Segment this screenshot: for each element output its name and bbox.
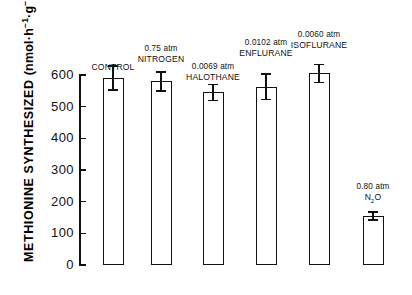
bar-nitrous-oxide [363, 216, 384, 265]
error-cap-lower-enflurane [261, 99, 271, 101]
error-cap-lower-halothane [208, 100, 218, 102]
error-bar-nitrogen [160, 72, 162, 91]
bar-label-agent-halothane: HALOTHANE [167, 72, 259, 82]
bar-nitrogen [151, 81, 172, 265]
error-cap-upper-isoflurane [314, 64, 324, 66]
y-tick-label-wrap-0: 0 [30, 257, 74, 271]
y-tick-label-0: 0 [34, 257, 74, 272]
y-tick-300 [79, 169, 86, 171]
y-tick-label-200: 200 [34, 194, 74, 209]
y-tick-600 [79, 74, 86, 76]
error-cap-lower-isoflurane [314, 82, 324, 84]
y-tick-label-400: 400 [34, 130, 74, 145]
figure-bar-chart: METHIONINE SYNTHESIZED (nmol·h−1·g−1) 01… [0, 0, 412, 295]
error-cap-upper-nitrous-oxide [368, 211, 378, 213]
y-tick-400 [79, 138, 86, 140]
bar-label-isoflurane: 0.0060 atmISOFLURANE [273, 30, 365, 51]
y-tick-label-100: 100 [34, 225, 74, 240]
bar-halothane [203, 92, 224, 265]
bar-label-agent-nitrous-oxide: N2O [327, 192, 412, 202]
y-tick-label-wrap-200: 200 [30, 194, 74, 208]
y-tick-200 [79, 201, 86, 203]
bar-label-dose-halothane: 0.0069 atm [167, 62, 259, 72]
plot-area: 0100200300400500600 CONTROL0.75 atmNITRO… [0, 0, 412, 295]
bar-label-halothane: 0.0069 atmHALOTHANE [167, 62, 259, 83]
error-cap-upper-halothane [208, 84, 218, 86]
error-cap-lower-nitrous-oxide [368, 219, 378, 221]
bar-label-agent-isoflurane: ISOFLURANE [273, 40, 365, 50]
y-tick-label-wrap-500: 500 [30, 99, 74, 113]
error-cap-lower-nitrogen [156, 90, 166, 92]
error-cap-lower-control [108, 89, 118, 91]
error-bar-enflurane [265, 74, 267, 99]
error-bar-isoflurane [318, 65, 320, 83]
bar-control [103, 78, 124, 265]
bar-label-dose-isoflurane: 0.0060 atm [273, 30, 365, 40]
bar-label-nitrous-oxide: 0.80 atmN2O [327, 182, 412, 203]
bar-label-dose-nitrous-oxide: 0.80 atm [327, 182, 412, 192]
error-bar-halothane [212, 85, 214, 101]
y-tick-label-wrap-400: 400 [30, 130, 74, 144]
y-tick-label-300: 300 [34, 162, 74, 177]
y-tick-label-500: 500 [34, 99, 74, 114]
y-tick-500 [79, 106, 86, 108]
y-tick-100 [79, 233, 86, 235]
y-tick-label-wrap-100: 100 [30, 225, 74, 239]
bar-enflurane [256, 87, 277, 265]
error-cap-upper-nitrogen [156, 71, 166, 73]
error-cap-upper-enflurane [261, 73, 271, 75]
y-tick-0 [79, 264, 86, 266]
bar-label-dose-nitrogen: 0.75 atm [115, 44, 207, 54]
bar-isoflurane [309, 73, 330, 265]
y-tick-label-wrap-300: 300 [30, 162, 74, 176]
